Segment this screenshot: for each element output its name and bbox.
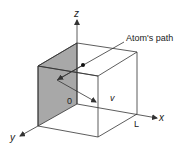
atom-in-box-diagram: z x y 0 v L Atom's path: [0, 0, 193, 150]
cube-right-face: [98, 52, 137, 137]
y-axis: [20, 126, 38, 136]
atom-dot: [81, 63, 85, 67]
origin-label: 0: [67, 96, 72, 106]
shaded-wall: [38, 43, 77, 126]
atom-path-label: Atom's path: [126, 33, 173, 43]
x-axis-label: x: [158, 112, 165, 123]
length-label: L: [134, 119, 139, 129]
x-axis: [77, 104, 157, 118]
z-axis-label: z: [73, 8, 79, 19]
y-axis-label: y: [9, 132, 16, 143]
velocity-label: v: [110, 93, 115, 103]
